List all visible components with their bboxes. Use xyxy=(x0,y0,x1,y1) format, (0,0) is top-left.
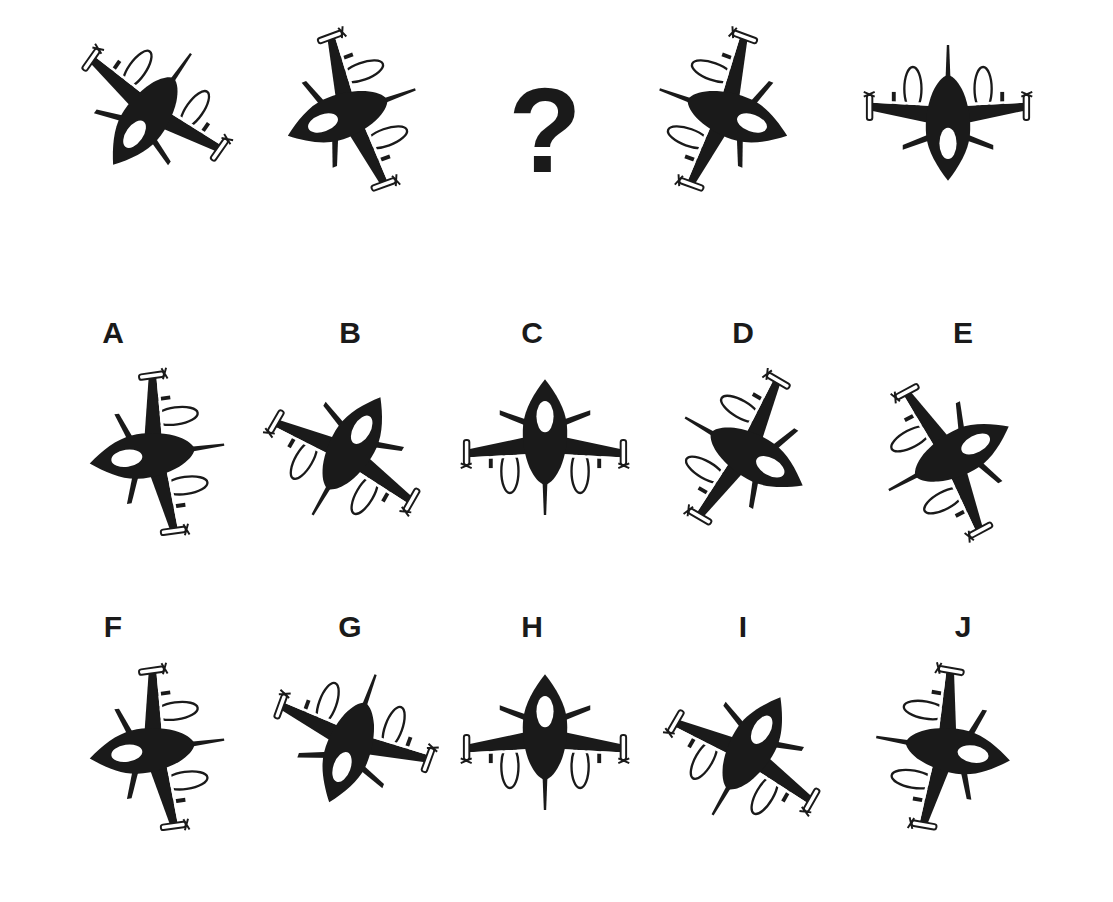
option-jet-f[interactable] xyxy=(50,650,250,850)
option-jet-j[interactable] xyxy=(850,650,1050,850)
option-label-d: D xyxy=(713,318,773,348)
option-label-e: E xyxy=(933,318,993,348)
fighter-jet-icon xyxy=(445,635,645,835)
sequence-jet-5 xyxy=(848,20,1048,220)
option-jet-g[interactable] xyxy=(250,645,450,845)
option-jet-c[interactable] xyxy=(445,340,645,540)
fighter-jet-icon xyxy=(850,650,1050,850)
option-label-a: A xyxy=(83,318,143,348)
option-label-g: G xyxy=(320,612,380,642)
fighter-jet-icon xyxy=(630,15,830,215)
sequence-jet-4 xyxy=(630,15,830,215)
fighter-jet-icon xyxy=(245,15,445,215)
fighter-jet-icon xyxy=(855,355,1055,555)
fighter-jet-icon xyxy=(650,650,850,850)
sequence-jet-2 xyxy=(245,15,445,215)
fighter-jet-icon xyxy=(50,355,250,555)
option-jet-b[interactable] xyxy=(250,350,450,550)
sequence-jet-1 xyxy=(48,15,248,215)
option-jet-h[interactable] xyxy=(445,635,645,835)
option-jet-e[interactable] xyxy=(855,355,1055,555)
question-mark-icon: ? xyxy=(495,70,595,190)
fighter-jet-icon xyxy=(650,355,850,555)
option-jet-i[interactable] xyxy=(650,650,850,850)
option-jet-d[interactable] xyxy=(650,355,850,555)
option-label-f: F xyxy=(83,612,143,642)
fighter-jet-icon xyxy=(250,645,450,845)
option-label-i: I xyxy=(713,612,773,642)
fighter-jet-icon xyxy=(48,15,248,215)
fighter-jet-icon xyxy=(250,350,450,550)
option-label-j: J xyxy=(933,612,993,642)
option-jet-a[interactable] xyxy=(50,355,250,555)
fighter-jet-icon xyxy=(445,340,645,540)
fighter-jet-icon xyxy=(50,650,250,850)
fighter-jet-icon xyxy=(848,20,1048,220)
option-label-b: B xyxy=(320,318,380,348)
